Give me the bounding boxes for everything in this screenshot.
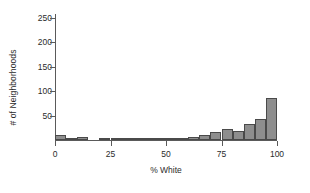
x-tick-mark bbox=[277, 141, 278, 146]
x-tick-label: 50 bbox=[151, 150, 181, 159]
x-tick-mark bbox=[55, 141, 56, 146]
histogram-bar bbox=[233, 131, 244, 140]
histogram-bar bbox=[255, 119, 266, 140]
histogram-bar bbox=[210, 132, 221, 140]
histogram-bar bbox=[155, 138, 166, 140]
x-tick-mark bbox=[166, 141, 167, 146]
y-axis-label: # of Neighborhoods bbox=[8, 35, 22, 140]
x-tick-label: 0 bbox=[40, 150, 70, 159]
x-tick-label: 25 bbox=[96, 150, 126, 159]
histogram-bar bbox=[166, 138, 177, 140]
y-tick-label: 50 bbox=[26, 112, 52, 121]
histogram-bar bbox=[222, 129, 233, 140]
histogram-bar bbox=[122, 138, 133, 140]
histogram-bar bbox=[111, 138, 122, 140]
x-tick-label: 100 bbox=[262, 150, 292, 159]
x-axis-label: % White bbox=[55, 165, 277, 175]
histogram-bar bbox=[188, 137, 199, 140]
histogram-bar bbox=[144, 138, 155, 140]
y-axis-tick-labels: 50100150200250 bbox=[24, 0, 52, 193]
y-tick-label: 250 bbox=[26, 14, 52, 23]
histogram-bar bbox=[266, 98, 277, 140]
histogram-bar bbox=[199, 135, 210, 140]
histogram-bar bbox=[99, 138, 110, 140]
x-tick-label: 75 bbox=[207, 150, 237, 159]
histogram-chart: # of Neighborhoods 50100150200250 025507… bbox=[0, 0, 310, 193]
y-tick-label: 200 bbox=[26, 38, 52, 47]
y-tick-label: 100 bbox=[26, 87, 52, 96]
histogram-bar bbox=[55, 135, 66, 140]
x-tick-mark bbox=[222, 141, 223, 146]
histogram-bar bbox=[244, 124, 255, 140]
histogram-bar bbox=[77, 137, 88, 140]
x-axis-tick-labels: 0255075100 bbox=[55, 14, 277, 54]
histogram-bar bbox=[177, 138, 188, 140]
histogram-bar bbox=[66, 138, 77, 140]
y-tick-label: 150 bbox=[26, 63, 52, 72]
x-tick-mark bbox=[111, 141, 112, 146]
histogram-bar bbox=[133, 138, 144, 140]
